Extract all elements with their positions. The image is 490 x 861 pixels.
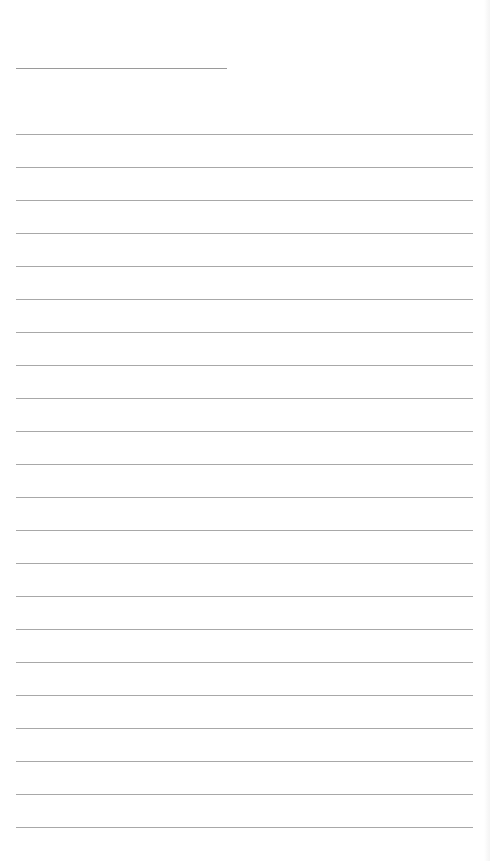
- ruled-line: [16, 299, 473, 300]
- ruled-line: [16, 398, 473, 399]
- ruled-line: [16, 530, 473, 531]
- ruled-line: [16, 497, 473, 498]
- ruled-line: [16, 596, 473, 597]
- ruled-line: [16, 431, 473, 432]
- ruled-line: [16, 233, 473, 234]
- ruled-line: [16, 695, 473, 696]
- ruled-line: [16, 464, 473, 465]
- ruled-line: [16, 563, 473, 564]
- ruled-line: [16, 167, 473, 168]
- ruled-line: [16, 794, 473, 795]
- ruled-line: [16, 134, 473, 135]
- ruled-line: [16, 629, 473, 630]
- page-edge-shadow: [484, 0, 490, 861]
- ruled-line: [16, 200, 473, 201]
- ruled-line: [16, 365, 473, 366]
- ruled-line: [16, 332, 473, 333]
- ruled-line: [16, 827, 473, 828]
- ruled-line: [16, 761, 473, 762]
- ruled-line: [16, 266, 473, 267]
- ruled-lines-container: [16, 0, 473, 861]
- ruled-line: [16, 728, 473, 729]
- ruled-line: [16, 662, 473, 663]
- notepaper-page: [0, 0, 490, 861]
